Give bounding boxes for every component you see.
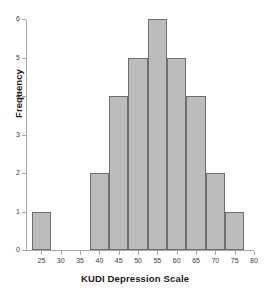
x-tick-label: 50 xyxy=(129,256,147,265)
x-tick xyxy=(254,251,255,255)
x-tick-label: 70 xyxy=(206,256,224,265)
y-tick-label: 3 xyxy=(16,130,20,139)
histogram-bar xyxy=(32,212,51,251)
histogram-bar xyxy=(186,96,205,250)
y-tick-label: 5 xyxy=(16,53,20,62)
x-tick xyxy=(235,251,236,255)
x-tick-label: 60 xyxy=(168,256,186,265)
x-tick-label: 55 xyxy=(148,256,166,265)
x-tick xyxy=(41,251,42,255)
x-tick-label: 35 xyxy=(71,256,89,265)
y-tick-label: 2 xyxy=(16,168,20,177)
x-tick-label: 45 xyxy=(110,256,128,265)
x-axis-title: KUDI Depression Scale xyxy=(0,273,270,284)
x-tick xyxy=(80,251,81,255)
y-tick-label: 1 xyxy=(16,207,20,216)
x-tick xyxy=(99,251,100,255)
x-tick-label: 25 xyxy=(32,256,50,265)
x-tick-label: 65 xyxy=(187,256,205,265)
x-tick xyxy=(119,251,120,255)
x-tick-label: 75 xyxy=(226,256,244,265)
histogram-bar xyxy=(206,173,225,250)
y-tick-label: 0 xyxy=(16,245,20,254)
x-tick xyxy=(215,251,216,255)
x-tick xyxy=(138,251,139,255)
y-tick: 0 xyxy=(22,250,26,251)
x-tick-label: 40 xyxy=(90,256,108,265)
x-tick xyxy=(196,251,197,255)
histogram-bar xyxy=(225,212,244,251)
histogram-chart: Frequency 0123456 2530354045505560657075… xyxy=(0,0,270,292)
x-tick xyxy=(61,251,62,255)
x-tick xyxy=(177,251,178,255)
plot-area: 0123456 253035404550556065707580 xyxy=(26,18,254,251)
x-tick-label: 30 xyxy=(52,256,70,265)
histogram-bar xyxy=(90,173,109,250)
histogram-bar xyxy=(167,58,186,251)
y-tick-label: 6 xyxy=(16,14,20,23)
histogram-bar xyxy=(148,19,167,250)
histogram-bar xyxy=(109,96,128,250)
histogram-bar xyxy=(128,58,147,251)
x-tick xyxy=(157,251,158,255)
y-tick-label: 4 xyxy=(16,91,20,100)
x-tick-label: 80 xyxy=(245,256,263,265)
bars-group xyxy=(26,18,254,250)
